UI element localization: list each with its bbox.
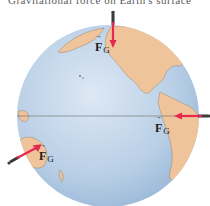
earth-gravity-diagram: Gravitational force on Earth's surface: [0, 0, 210, 206]
force-label-north: FG: [95, 41, 110, 53]
globe-illustration: [0, 0, 210, 206]
force-label-southwest: FG: [39, 150, 54, 162]
hawaii-islands: [79, 75, 81, 77]
clipped-caption-text: Gravitational force on Earth's surface: [8, 0, 208, 6]
force-label-east: FG: [155, 122, 170, 134]
